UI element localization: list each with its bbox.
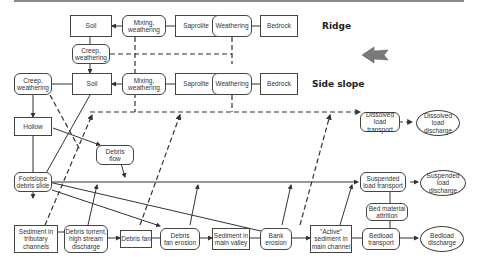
node-label: Suspended load transport [363, 175, 403, 190]
node-label: Soil [86, 22, 97, 30]
side-bedrock-node: Bedrock [260, 73, 298, 95]
ridge-soil-node: Soil [70, 15, 112, 37]
node-label: Debris torrent, high stream discharge [65, 228, 106, 251]
bedload-discharge-node: Bedload discharge [420, 226, 464, 252]
side-saprolite-node: Saprolite [175, 73, 217, 95]
node-label: Debris fan [121, 235, 151, 243]
sediment-main-valley-node: Sediment in main valley [212, 228, 250, 250]
ridge-bedrock-node: Bedrock [260, 15, 298, 37]
hollow-node: Hollow [14, 117, 52, 136]
node-label: Bedload transport [368, 232, 394, 247]
node-label: Bank erosion [265, 232, 286, 247]
sediment-tributary-node: Sediment in tributary channels [14, 225, 58, 253]
node-label: Soil [87, 80, 98, 88]
node-label: Bedrock [267, 22, 291, 30]
node-label: Dissolved load discharge [424, 112, 452, 135]
bedload-transport-node: Bedload transport [362, 228, 400, 250]
node-label: Debris flow [106, 148, 125, 163]
ridge-mixing-node: Mixing, weathering [122, 15, 166, 37]
node-label: Hollow [23, 123, 43, 131]
suspended-transport-node: Suspended load transport [360, 172, 406, 192]
ridge-creep-node: Creep, weathering [72, 44, 110, 64]
side-soil-node: Soil [72, 73, 112, 95]
node-label: Creep, weathering [75, 47, 107, 62]
node-label: Footslope debris slide [17, 175, 50, 190]
active-sediment-node: "Active" sediment in main channel [310, 225, 352, 253]
debris-fan-node: Debris fan [120, 230, 152, 248]
node-label: Mixing, weathering [128, 19, 160, 34]
node-label: Bedload discharge [428, 232, 456, 247]
node-label: Dissolved load transport [361, 111, 399, 134]
node-label: "Active" sediment in main channel [312, 228, 351, 251]
node-label: Bed material attrition [369, 205, 406, 220]
node-label: Suspended load discharge [427, 172, 460, 195]
node-label: Bedrock [267, 80, 291, 88]
ridge-saprolite-node: Saprolite [175, 15, 217, 37]
debris-fan-erosion-node: Debris fan erosion [160, 228, 200, 250]
bank-erosion-node: Bank erosion [260, 228, 292, 250]
node-label: Weathering [215, 22, 248, 30]
ridge-weathering-node: Weathering [212, 15, 252, 37]
zone-label-ridge: Ridge [322, 21, 351, 31]
suspended-discharge-node: Suspended load discharge [420, 170, 466, 196]
node-label: Weathering [215, 80, 248, 88]
node-label: Debris fan erosion [164, 232, 196, 247]
node-label: Creep, weathering [17, 77, 49, 92]
dissolved-discharge-node: Dissolved load discharge [416, 110, 460, 136]
bed-attrition-node: Bed material attrition [366, 203, 408, 221]
node-label: Sediment in tributary channels [19, 228, 53, 251]
zone-label-side-slope: Side slope [312, 79, 364, 89]
debris-flow-node: Debris flow [96, 145, 134, 165]
left-arrow-icon [362, 47, 388, 63]
side-mixing-node: Mixing, weathering [122, 73, 166, 95]
dissolved-transport-node: Dissolved load transport [360, 112, 400, 132]
footslope-debris-slide-node: Footslope debris slide [14, 172, 52, 192]
debris-torrent-node: Debris torrent, high stream discharge [64, 225, 108, 253]
side-weathering-node: Weathering [212, 73, 252, 95]
node-label: Saprolite [183, 22, 209, 30]
side-creep-node: Creep, weathering [14, 73, 52, 95]
node-label: Saprolite [183, 80, 209, 88]
node-label: Sediment in main valley [214, 232, 248, 247]
node-label: Mixing, weathering [128, 77, 160, 92]
